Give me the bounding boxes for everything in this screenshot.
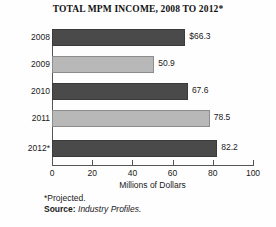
bar-value-2010: 67.6	[192, 85, 209, 95]
bar-2011[interactable]	[52, 110, 210, 127]
x-tick	[52, 160, 53, 166]
category-label-2011: 2011	[4, 113, 50, 123]
bar-row: 67.6	[52, 83, 253, 100]
bar-value-2009: 50.9	[158, 58, 175, 68]
category-label-2008: 2008	[4, 32, 50, 42]
x-tick	[92, 160, 93, 166]
bar-2009[interactable]	[52, 56, 154, 73]
category-label-wrap: 2011	[0, 110, 50, 127]
chart-figure: TOTAL MPM INCOME, 2008 TO 2012* 2008 200…	[0, 0, 276, 227]
bar-value-2011: 78.5	[214, 112, 231, 122]
category-label-wrap: 2009	[0, 56, 50, 73]
x-tick	[173, 160, 174, 166]
plot-area: $66.3 50.9 67.6 78.5 82.2	[52, 29, 253, 165]
x-tick-label: 20	[87, 168, 96, 178]
bar-row: 82.2	[52, 140, 253, 157]
category-label-2010: 2010	[4, 86, 50, 96]
category-label-2009: 2009	[4, 59, 50, 69]
x-tick	[213, 160, 214, 166]
bar-2010[interactable]	[52, 83, 188, 100]
category-label-2012: 2012*	[4, 143, 50, 153]
x-tick-label: 80	[208, 168, 217, 178]
category-label-wrap: 2010	[0, 83, 50, 100]
category-label-wrap: 2008	[0, 29, 50, 46]
footnotes: *Projected. Source: Industry Profiles.	[44, 193, 141, 215]
bar-2012[interactable]	[52, 140, 217, 157]
chart-title: TOTAL MPM INCOME, 2008 TO 2012*	[0, 4, 276, 14]
x-tick	[132, 160, 133, 166]
x-tick-label: 40	[128, 168, 137, 178]
bar-row: 50.9	[52, 56, 253, 73]
x-axis-line	[52, 165, 253, 166]
bar-value-2008: $66.3	[189, 31, 210, 41]
bar-2008[interactable]	[52, 29, 185, 46]
bar-row: 78.5	[52, 110, 253, 127]
footnote-projected: *Projected.	[44, 193, 141, 204]
x-tick	[253, 160, 254, 166]
bar-row: $66.3	[52, 29, 253, 46]
x-tick-label: 60	[168, 168, 177, 178]
category-label-wrap: 2012*	[0, 140, 50, 157]
x-tick-label: 100	[246, 168, 260, 178]
source-value: Industry Profiles.	[78, 204, 141, 214]
footnote-source: Source: Industry Profiles.	[44, 204, 141, 215]
x-axis-title: Millions of Dollars	[52, 180, 253, 190]
source-label: Source:	[44, 204, 76, 214]
x-tick-label: 0	[50, 168, 55, 178]
bar-value-2012: 82.2	[221, 142, 238, 152]
